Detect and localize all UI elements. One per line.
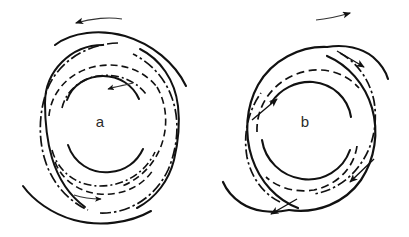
panel-a-dashed-arm-right	[120, 87, 166, 187]
panel-b: b	[223, 13, 388, 214]
panel-a: a	[23, 18, 186, 223]
panel-b-inner-arm-upper	[271, 82, 351, 117]
figure-container: a	[0, 0, 409, 237]
flow-arrow-inner-bottom	[74, 195, 101, 199]
panel-a-disk-outline-left	[45, 45, 103, 207]
panel-b-inner-arm-lower	[262, 140, 350, 179]
panel-a-inner-arm-lower	[68, 145, 143, 172]
panel-a-outer-arm-upper	[55, 32, 186, 86]
panel-b-disk-outline-right	[289, 56, 375, 211]
panel-a-dashed-arm-lower	[55, 162, 153, 194]
panel-a-dashed-arm-upper	[49, 65, 157, 116]
panel-a-dashdot-arm-upper	[62, 75, 146, 108]
rotation-arrow-right	[316, 13, 350, 20]
spiral-arm-diagram: a	[0, 0, 409, 237]
panel-a-label: a	[96, 113, 105, 130]
panel-b-label: b	[301, 113, 309, 130]
rotation-arrow-left	[76, 18, 122, 23]
panel-a-disk-outline-right	[137, 49, 179, 208]
